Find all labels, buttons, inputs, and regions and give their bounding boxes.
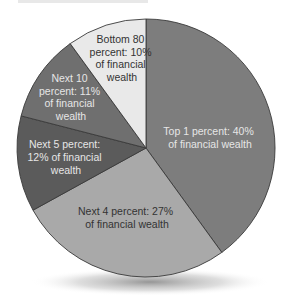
pie-chart: Top 1 percent: 40% of financial wealth N… [0, 0, 291, 300]
label-next-4-percent: Next 4 percent: 27% of financial wealth [78, 205, 176, 230]
label-top-1-percent: Top 1 percent: 40% of financial wealth [163, 125, 256, 150]
